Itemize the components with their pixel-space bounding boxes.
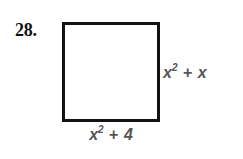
bottom-label-base: x: [89, 126, 98, 143]
right-label-operator: +: [182, 64, 193, 81]
right-label-term: x: [198, 64, 207, 81]
exercise-figure: 28. x2 + x x2 + 4: [0, 0, 243, 159]
bottom-label-operator: +: [108, 126, 119, 143]
problem-number: 28.: [15, 20, 37, 40]
bottom-label-term: 4: [124, 126, 133, 143]
side-label-right: x2 + x: [163, 64, 207, 82]
right-label-base: x: [163, 64, 172, 81]
right-label-exponent: 2: [172, 62, 178, 73]
bottom-label-exponent: 2: [98, 124, 104, 135]
square-shape: [62, 22, 160, 122]
side-label-bottom: x2 + 4: [62, 126, 160, 144]
